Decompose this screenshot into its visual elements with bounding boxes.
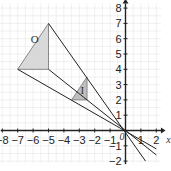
triangle-i-label: I: [81, 84, 85, 96]
y-tick-label: 8: [115, 2, 121, 14]
x-axis-arrow-icon: [161, 128, 166, 134]
x-tick-label: 2: [153, 134, 159, 146]
x-tick-label: −7: [11, 134, 24, 146]
triangle-o-label: O: [31, 33, 39, 45]
y-tick-label: 5: [115, 48, 121, 60]
x-tick-label: −2: [88, 134, 101, 146]
y-tick-label: −1: [109, 140, 122, 152]
y-tick-label: 1: [115, 109, 121, 121]
x-axis-label: x: [165, 134, 171, 145]
x-tick-label: −4: [58, 134, 71, 146]
y-tick-label: 4: [115, 63, 121, 75]
y-tick-label: −2: [109, 155, 122, 167]
y-tick-label: 2: [115, 94, 121, 106]
x-tick-label: −6: [27, 134, 40, 146]
enlargement-figure: −8−7−6−5−4−3−2−11287654321−1−20xOI: [0, 0, 171, 171]
y-tick-label: 7: [115, 17, 121, 29]
x-tick-label: −8: [0, 134, 9, 146]
x-tick-label: 1: [138, 134, 144, 146]
y-tick-label: 6: [115, 33, 121, 45]
origin-label: 0: [120, 131, 125, 142]
x-tick-label: −5: [42, 134, 55, 146]
x-tick-label: −3: [73, 134, 86, 146]
y-axis-arrow-icon: [123, 0, 129, 4]
y-tick-label: 3: [115, 79, 121, 91]
